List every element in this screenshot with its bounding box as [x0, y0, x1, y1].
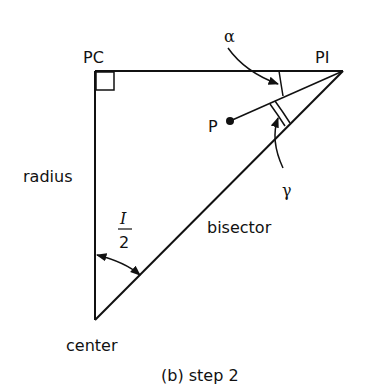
point-p — [226, 117, 234, 125]
label-pc: PC — [83, 48, 104, 67]
half-angle-fraction: I 2 — [118, 209, 132, 252]
right-angle-marker — [96, 72, 114, 90]
label-bisector: bisector — [207, 218, 272, 237]
label-p: P — [208, 117, 218, 136]
triangle — [95, 71, 343, 320]
label-pi: PI — [315, 48, 329, 67]
bisector-diagram: PC PI α γ P radius bisector I 2 center (… — [0, 0, 365, 392]
label-center: center — [66, 336, 118, 355]
gamma-pointer-arrow — [275, 118, 283, 168]
label-radius: radius — [23, 167, 72, 186]
fraction-denominator: 2 — [119, 233, 129, 252]
alpha-pointer-arrow — [228, 48, 278, 84]
label-gamma: γ — [282, 181, 292, 200]
gamma-arc-inner — [270, 104, 285, 126]
alpha-arc — [279, 71, 283, 96]
label-alpha: α — [224, 27, 235, 46]
p-to-pi-line — [230, 71, 343, 121]
half-angle-arc — [97, 255, 140, 275]
bisector-line — [95, 71, 343, 320]
figure-caption: (b) step 2 — [161, 366, 239, 385]
fraction-numerator: I — [119, 209, 127, 228]
